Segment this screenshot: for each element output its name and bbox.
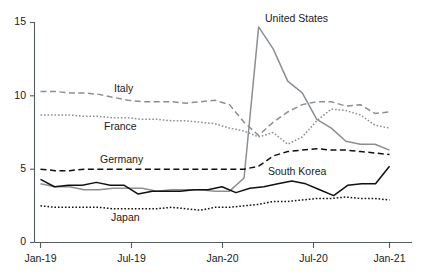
y-axis-ticks: 0 5 10 15 bbox=[14, 15, 34, 247]
x-tick-label-jan20: Jan-20 bbox=[206, 252, 238, 264]
series-layer bbox=[41, 27, 390, 210]
series-line-germany bbox=[41, 149, 390, 171]
y-tick-label-0: 0 bbox=[20, 235, 26, 247]
unemployment-rate-line-chart: 0 5 10 15 Jan-19 Jul-19 Jan-20 Jul-20 Ja… bbox=[0, 0, 423, 280]
x-tick-label-jul20: Jul-20 bbox=[299, 252, 328, 264]
series-line-japan bbox=[41, 197, 390, 210]
chart-plot-area: 0 5 10 15 Jan-19 Jul-19 Jan-20 Jul-20 Ja… bbox=[0, 0, 423, 280]
x-tick-label-jan19: Jan-19 bbox=[24, 252, 56, 264]
x-tick-label-jul19: Jul-19 bbox=[117, 252, 146, 264]
series-line-united-states bbox=[41, 27, 390, 191]
y-tick-label-15: 15 bbox=[14, 15, 26, 27]
series-label-japan: Japan bbox=[111, 211, 140, 223]
series-label-united-states: United States bbox=[265, 12, 328, 24]
series-line-italy bbox=[41, 91, 390, 135]
y-tick-label-10: 10 bbox=[14, 89, 26, 101]
x-axis-ticks: Jan-19 Jul-19 Jan-20 Jul-20 Jan-21 bbox=[24, 243, 405, 265]
series-label-france: France bbox=[104, 120, 137, 132]
series-label-italy: Italy bbox=[114, 82, 134, 94]
y-tick-label-5: 5 bbox=[20, 162, 26, 174]
series-label-south-korea: South Korea bbox=[268, 165, 327, 177]
series-label-germany: Germany bbox=[100, 153, 144, 165]
series-line-france bbox=[41, 109, 390, 144]
x-tick-label-jan21: Jan-21 bbox=[373, 252, 405, 264]
